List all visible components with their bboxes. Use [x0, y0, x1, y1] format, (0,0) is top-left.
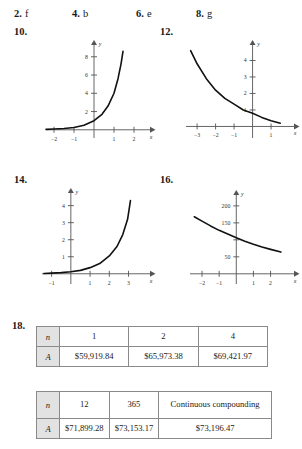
table-cell: 365	[109, 392, 159, 419]
graph-16: xy−2−11250150200	[156, 182, 300, 310]
answer-number: 6.	[136, 8, 144, 19]
table-cell: 2	[129, 327, 198, 347]
svg-text:3: 3	[127, 280, 130, 286]
table-cell: $73,153.17	[109, 419, 159, 439]
svg-text:y: y	[240, 191, 244, 197]
answer-number: 8.	[196, 8, 204, 19]
svg-text:150: 150	[222, 220, 231, 226]
svg-text:x: x	[149, 134, 153, 140]
svg-text:−1: −1	[216, 280, 222, 286]
graph-14: xy−11231234	[16, 182, 156, 310]
svg-text:2: 2	[133, 136, 136, 142]
row-header: A	[37, 419, 60, 439]
svg-text:−1: −1	[71, 136, 77, 142]
svg-text:3: 3	[62, 220, 65, 226]
table-row: A$59,919.84$65,973.38$69,421.97	[37, 347, 268, 367]
answer-key-page: 2.f 4.b 6.e 8.g 10. xy−2−1122468 12. xy−…	[0, 0, 302, 449]
table-18-b: n12365Continuous compoundingA$71,899.28$…	[36, 391, 272, 439]
svg-text:−2: −2	[212, 132, 218, 138]
svg-text:2: 2	[244, 90, 247, 96]
svg-text:x: x	[149, 278, 153, 284]
answer-item-8: 8.g	[196, 8, 212, 19]
table-row: A$71,899.28$73,153.17$73,196.47	[37, 419, 272, 439]
svg-text:1: 1	[270, 132, 273, 138]
table-cell: $73,196.47	[159, 419, 272, 439]
answer-number: 4.	[72, 8, 80, 19]
svg-text:8: 8	[85, 54, 88, 60]
svg-text:x: x	[293, 130, 297, 136]
svg-text:2: 2	[108, 280, 111, 286]
svg-text:y: y	[98, 41, 102, 47]
svg-text:1: 1	[62, 254, 65, 260]
answer-number: 2.	[14, 8, 22, 19]
svg-text:1: 1	[113, 136, 116, 142]
answer-value: g	[204, 8, 212, 19]
table-cell: $65,973.38	[129, 347, 198, 367]
answer-row: 2.f 4.b 6.e 8.g	[0, 8, 302, 24]
svg-text:200: 200	[222, 203, 231, 209]
svg-text:−3: −3	[194, 132, 200, 138]
svg-text:6: 6	[85, 72, 88, 78]
table-cell: 4	[198, 327, 267, 347]
svg-text:−2: −2	[51, 136, 57, 142]
svg-text:4: 4	[85, 90, 88, 96]
svg-text:x: x	[293, 278, 297, 284]
table-18-a: n124A$59,919.84$65,973.38$69,421.97	[36, 326, 268, 367]
table-row: n124	[37, 327, 268, 347]
table-cell: $59,919.84	[60, 347, 129, 367]
svg-text:2: 2	[85, 109, 88, 115]
row-header: n	[37, 327, 60, 347]
answer-item-6: 6.e	[136, 8, 152, 19]
table-cell: 12	[60, 392, 110, 419]
svg-text:50: 50	[224, 254, 230, 260]
svg-text:1: 1	[89, 280, 92, 286]
answer-value: b	[80, 8, 88, 19]
graph-16-svg: xy−2−11250150200	[156, 182, 300, 310]
table-cell: Continuous compounding	[159, 392, 272, 419]
row-header: A	[37, 347, 60, 367]
graph-14-svg: xy−11231234	[16, 182, 156, 310]
svg-text:−2: −2	[199, 280, 205, 286]
answer-value: e	[144, 8, 152, 19]
svg-text:1: 1	[252, 280, 255, 286]
svg-text:4: 4	[244, 57, 247, 63]
table-cell: $69,421.97	[198, 347, 267, 367]
graph-10: xy−2−1122468	[16, 34, 156, 164]
exercise-label-18: 18.	[12, 320, 25, 331]
svg-text:−1: −1	[49, 280, 55, 286]
svg-text:2: 2	[269, 280, 272, 286]
table-row: n12365Continuous compounding	[37, 392, 272, 419]
table-cell: 1	[60, 327, 129, 347]
svg-text:y: y	[256, 41, 260, 47]
table-cell: $71,899.28	[60, 419, 110, 439]
svg-text:4: 4	[62, 203, 65, 209]
svg-text:2: 2	[62, 237, 65, 243]
graph-12: xy−3−2−111234	[156, 34, 300, 164]
answer-item-4: 4.b	[72, 8, 88, 19]
graph-10-svg: xy−2−1122468	[16, 34, 156, 164]
answer-value: f	[22, 8, 29, 19]
answer-item-2: 2.f	[14, 8, 28, 19]
svg-text:−1: −1	[231, 132, 237, 138]
row-header: n	[37, 392, 60, 419]
graph-12-svg: xy−3−2−111234	[156, 34, 300, 164]
svg-text:y: y	[75, 189, 79, 195]
svg-text:3: 3	[244, 74, 247, 80]
